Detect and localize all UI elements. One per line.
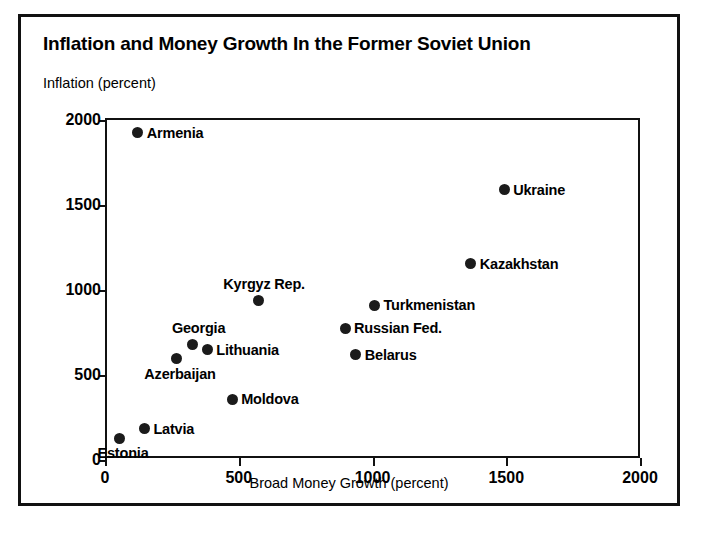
plot-area: ArmeniaUkraineKazakhstanKyrgyz Rep.Turkm… <box>105 118 640 458</box>
y-axis-tick-label: 0 <box>92 451 101 469</box>
x-axis-tick-mark <box>506 458 508 466</box>
y-axis-tick-label: 1000 <box>65 281 101 299</box>
data-point-marker <box>227 394 238 405</box>
data-point-marker <box>369 300 380 311</box>
data-point-marker <box>253 295 264 306</box>
x-axis-tick-mark <box>239 458 241 466</box>
data-point-marker <box>187 339 198 350</box>
data-point-marker <box>202 344 213 355</box>
y-axis-tick-label: 2000 <box>65 111 101 129</box>
x-axis-title: Broad Money Growth (percent) <box>21 475 677 491</box>
chart-title: Inflation and Money Growth In the Former… <box>43 33 531 55</box>
data-point-label: Ukraine <box>513 182 565 198</box>
data-point-marker <box>350 349 361 360</box>
data-point-marker <box>114 433 125 444</box>
x-axis-tick-mark <box>640 458 642 466</box>
y-axis-tick-label: 500 <box>74 366 101 384</box>
x-axis-tick-mark <box>105 458 107 466</box>
data-point-label: Lithuania <box>216 342 279 358</box>
data-point-label: Kyrgyz Rep. <box>223 276 305 292</box>
data-point-label: Kazakhstan <box>480 256 559 272</box>
data-point-marker <box>499 184 510 195</box>
data-point-marker <box>132 127 143 138</box>
y-axis-title: Inflation (percent) <box>43 75 156 91</box>
data-point-label: Turkmenistan <box>384 297 476 313</box>
figure-frame: Inflation and Money Growth In the Former… <box>18 14 680 506</box>
x-axis-tick-mark <box>373 458 375 466</box>
data-point-label: Azerbaijan <box>144 366 215 382</box>
data-point-marker <box>465 258 476 269</box>
data-point-label: Belarus <box>365 347 417 363</box>
data-point-marker <box>340 323 351 334</box>
data-point-marker <box>139 423 150 434</box>
data-point-marker <box>171 353 182 364</box>
data-point-label: Russian Fed. <box>354 320 442 336</box>
data-point-label: Moldova <box>241 391 298 407</box>
y-axis-tick-label: 1500 <box>65 196 101 214</box>
plot-inner: ArmeniaUkraineKazakhstanKyrgyz Rep.Turkm… <box>107 120 638 456</box>
data-point-label: Georgia <box>172 320 225 336</box>
data-point-label: Latvia <box>153 421 194 437</box>
data-point-label: Armenia <box>147 125 204 141</box>
